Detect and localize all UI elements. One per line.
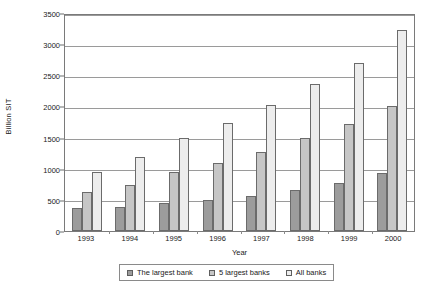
x-axis-tick-label: 1999	[328, 234, 370, 246]
y-axis-tick-label: 2000	[43, 103, 60, 112]
bar	[125, 185, 135, 231]
plot-area	[64, 14, 415, 232]
bar	[179, 138, 189, 231]
y-axis-title: Billion SIT	[2, 0, 16, 232]
bar	[344, 124, 354, 231]
bar	[82, 192, 92, 231]
bar	[213, 163, 223, 231]
x-axis-tick-label: 1995	[153, 234, 195, 246]
y-axis-tick-mark	[60, 232, 64, 233]
legend-label: All banks	[296, 268, 326, 277]
bar-group	[377, 15, 407, 231]
bar	[266, 105, 276, 231]
bar	[387, 106, 397, 231]
y-axis-tick-label: 3000	[43, 41, 60, 50]
bar	[92, 172, 102, 231]
y-axis-tick-mark	[60, 169, 64, 170]
bar-groups	[65, 15, 414, 231]
x-axis-tick-label: 2000	[372, 234, 414, 246]
legend-label: The largest bank	[137, 268, 193, 277]
bar	[203, 200, 213, 231]
x-axis-tick-label: 1997	[240, 234, 282, 246]
y-axis-tick-label: 3500	[43, 10, 60, 19]
chart-legend: The largest bank5 largest banksAll banks	[119, 264, 334, 281]
bar-group	[115, 15, 145, 231]
bar	[310, 84, 320, 231]
x-axis-tick-label: 1994	[109, 234, 151, 246]
y-axis-tick-mark	[60, 45, 64, 46]
bar	[300, 138, 310, 231]
bar	[290, 190, 300, 231]
bar	[377, 173, 387, 231]
bar	[256, 152, 266, 231]
x-axis-tick-label: 1993	[65, 234, 107, 246]
x-axis-tick-label: 1998	[284, 234, 326, 246]
bar-group	[290, 15, 320, 231]
bar	[334, 183, 344, 231]
y-axis-tick-mark	[60, 14, 64, 15]
x-axis-tick-label: 1996	[197, 234, 239, 246]
legend-item: All banks	[286, 268, 326, 277]
bar-group	[72, 15, 102, 231]
x-axis-title: Year	[64, 248, 415, 257]
bar	[397, 30, 407, 231]
bar-group	[203, 15, 233, 231]
bar-group	[246, 15, 276, 231]
y-axis-tick-label: 500	[47, 196, 60, 205]
legend-swatch-icon	[209, 270, 215, 276]
y-axis-title-label: Billion SIT	[5, 98, 14, 134]
bar-chart: Billion SIT 1993199419951996199719981999…	[0, 0, 441, 294]
legend-swatch-icon	[286, 270, 292, 276]
legend-item: 5 largest banks	[209, 268, 270, 277]
x-axis-labels: 19931994199519961997199819992000	[64, 234, 415, 246]
bar	[159, 203, 169, 231]
bar	[135, 157, 145, 231]
y-axis-tick-label: 1500	[43, 134, 60, 143]
y-axis-tick-mark	[60, 138, 64, 139]
bar	[246, 196, 256, 231]
y-axis-tick-label: 2500	[43, 72, 60, 81]
y-axis-tick-mark	[60, 107, 64, 108]
y-axis-tick-mark	[60, 200, 64, 201]
bar	[115, 207, 125, 231]
legend-label: 5 largest banks	[219, 268, 270, 277]
y-axis-tick-label: 1000	[43, 165, 60, 174]
bar	[223, 123, 233, 231]
y-axis-tick-mark	[60, 76, 64, 77]
legend-swatch-icon	[127, 270, 133, 276]
bar-group	[334, 15, 364, 231]
legend-item: The largest bank	[127, 268, 193, 277]
bar	[72, 208, 82, 231]
bar	[169, 172, 179, 231]
bar-group	[159, 15, 189, 231]
bar	[354, 63, 364, 231]
